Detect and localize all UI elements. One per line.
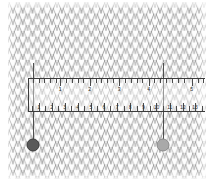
ruler-tick-layer: 1 2 3 4 5 1	[29, 79, 205, 111]
ruler-top-label: 1	[59, 87, 62, 92]
ruler-top-major-tick	[119, 79, 120, 86]
ruler-top-label: 4	[147, 87, 150, 92]
ruler-top-tick	[154, 79, 155, 83]
ruler-bottom-tick	[163, 106, 164, 111]
ruler-top-tick	[107, 79, 108, 83]
ruler-top-tick	[66, 79, 67, 83]
ruler-bottom-label: 3	[63, 105, 66, 110]
ruler-top-tick	[131, 79, 132, 83]
ruler-top-major-tick	[149, 79, 150, 86]
ruler-top-tick	[33, 79, 34, 83]
ruler-top-tick	[184, 79, 185, 83]
ruler-top-label: 3	[118, 87, 121, 92]
ruler-top-tick	[56, 79, 57, 83]
ruler-bottom-tick	[84, 106, 85, 111]
ruler-top-tick	[142, 79, 143, 83]
ruler-bottom-tick	[202, 106, 203, 111]
ruler-top-tick	[78, 79, 79, 83]
ruler-bottom-tick	[58, 106, 59, 111]
ruler-bottom-label: 12	[180, 105, 186, 110]
ruler-top-tick	[160, 79, 161, 83]
ruler-bottom-tick	[176, 106, 177, 111]
ruler-bottom-label: 1	[37, 105, 40, 110]
ruler-top-label: 5	[190, 87, 193, 92]
measuring-ruler[interactable]: 1 2 3 4 5 1	[28, 78, 205, 112]
ruler-bottom-tick	[150, 106, 151, 111]
ruler-bottom-tick	[45, 106, 46, 111]
ruler-top-tick	[44, 79, 45, 83]
ruler-top-major-tick	[60, 79, 61, 86]
ruler-top-tick	[101, 79, 102, 83]
ruler-top-tick	[166, 79, 167, 83]
ruler-top-tick	[172, 79, 173, 83]
ruler-top-tick	[113, 79, 114, 83]
ruler-bottom-tick	[189, 106, 190, 111]
ruler-top-tick	[50, 79, 51, 83]
ruler-top-label: 2	[88, 87, 91, 92]
ruler-bottom-tick	[32, 106, 33, 111]
ruler-bottom-label: 10	[154, 105, 160, 110]
stitch-marker-right[interactable]	[157, 139, 170, 152]
ruler-top-tick	[203, 79, 204, 83]
ruler-bottom-label: 5	[90, 105, 93, 110]
ruler-bottom-tick	[110, 106, 111, 111]
ruler-top-tick	[39, 79, 40, 83]
ruler-top-tick	[137, 79, 138, 83]
ruler-bottom-label: 2	[50, 105, 53, 110]
ruler-top-major-tick	[192, 79, 193, 86]
ruler-top-tick	[83, 79, 84, 83]
ruler-bottom-label: 7	[116, 105, 119, 110]
ruler-bottom-label: 13	[192, 105, 198, 110]
ruler-bottom-label: 4	[76, 105, 79, 110]
ruler-top-tick	[96, 79, 97, 83]
ruler-bottom-label: 8	[129, 105, 132, 110]
ruler-top-tick	[178, 79, 179, 83]
ruler-top-tick	[125, 79, 126, 83]
ruler-bottom-label: 6	[103, 105, 106, 110]
ruler-top-major-tick	[90, 79, 91, 86]
ruler-bottom-tick	[124, 106, 125, 111]
ruler-bottom-label: 9	[142, 105, 145, 110]
ruler-bottom-tick	[97, 106, 98, 111]
ruler-bottom-label: 11	[167, 105, 172, 110]
ruler-bottom-tick	[137, 106, 138, 111]
stitch-marker-left[interactable]	[27, 139, 40, 152]
ruler-bottom-tick	[71, 106, 72, 111]
ruler-top-tick	[72, 79, 73, 83]
ruler-top-tick	[198, 79, 199, 83]
screenshot-root: 1 2 3 4 5 1	[0, 0, 212, 181]
